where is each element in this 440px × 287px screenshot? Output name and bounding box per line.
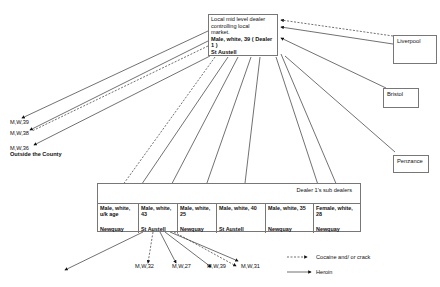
sub-dealer-cell: Male, white, u/k age Newquay [98, 203, 139, 233]
source-label: Liverpool [397, 38, 421, 44]
sub-dealer-desc: Male, white, 35 [268, 205, 311, 211]
legend-solid-label: Heroin [316, 269, 332, 276]
source-bristol: Bristol [383, 88, 419, 108]
main-dealer-box: Local mid level dealer controlling local… [208, 14, 278, 56]
sub-dealer-desc: Female, white, 28 [316, 205, 359, 218]
sub-dealer-cell: Male, white, 43 St Austell [139, 203, 178, 233]
outside-county-caption: Outside the County [10, 151, 62, 158]
sub-dealer-cell: Male, white, 25 Newquay [178, 203, 217, 233]
sub-dealer-cell: Male, white, 35 Newquay [266, 203, 314, 233]
main-dealer-line2: controlling local [211, 23, 275, 30]
main-dealer-line1: Local mid level dealer [211, 16, 275, 23]
outside-label-2: M,W,38 [10, 130, 29, 137]
sub-dealer-location: Newquay [316, 226, 340, 232]
sub-dealer-desc: Male, white, 40 [219, 205, 263, 211]
main-dealer-line3: market. [211, 29, 275, 36]
source-label: Penzance [397, 158, 423, 164]
sub-dealer-location: St Austell [219, 226, 244, 232]
sub-dealer-location: Newquay [268, 226, 292, 232]
second-tier-label-1: M,W,32 [135, 263, 154, 270]
outside-label-1: M,W,39 [10, 119, 29, 126]
source-penzance: Penzance [393, 155, 429, 173]
sub-dealer-desc: Male, white, 25 [180, 205, 214, 218]
main-dealer-line5: 1 ) [211, 42, 275, 49]
sub-dealer-desc: Male, white, u/k age [100, 205, 136, 218]
sub-dealer-location: Newquay [100, 226, 124, 232]
second-tier-label-2: M,W,27 [172, 263, 191, 270]
sub-dealer-desc: Male, white, 43 [141, 205, 175, 218]
sub-dealer-cell: Female, white, 28 Newquay [314, 203, 361, 233]
sub-dealer-location: St Austell [141, 226, 166, 232]
main-dealer-line6: St Austell [211, 49, 275, 56]
main-dealer-line4: Male, white, 39 ( Dealer [211, 36, 275, 43]
legend-dashed-label: Cocaine and/ or crack [316, 254, 370, 261]
second-tier-label-3: M,W,39 [207, 263, 226, 270]
source-liverpool: Liverpool [393, 35, 437, 64]
sub-dealer-location: Newquay [180, 226, 204, 232]
sub-dealers-header: Dealer 1's sub dealers [297, 187, 352, 193]
sub-dealers-table: Dealer 1's sub dealers Male, white, u/k … [97, 183, 361, 232]
sub-dealer-cell: Male, white, 40 St Austell [217, 203, 266, 233]
source-label: Bristol [387, 91, 403, 97]
second-tier-label-4: M,W,31 [241, 263, 260, 270]
